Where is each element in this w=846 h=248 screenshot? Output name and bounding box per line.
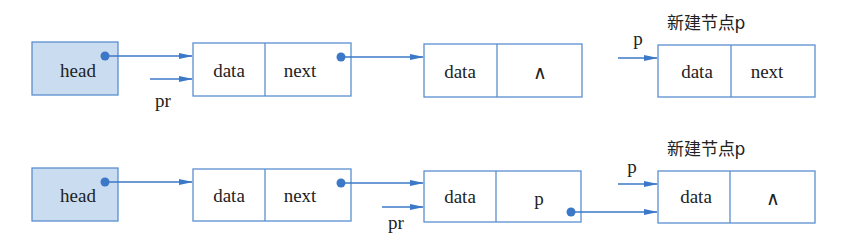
node1-data-row2: data <box>213 186 245 205</box>
diagram-canvas <box>0 0 846 248</box>
head-label-row1: head <box>60 61 96 80</box>
next-dot-row2 <box>337 179 346 188</box>
node1-next-row1: next <box>284 61 317 80</box>
p-pointer-label-row2: p <box>627 157 637 176</box>
pr-label-row1: pr <box>155 91 171 110</box>
node3-data-row1: data <box>681 62 713 81</box>
node1-data-row1: data <box>213 61 245 80</box>
node2-data-row2: data <box>444 187 476 206</box>
p-dot-row2 <box>567 208 576 217</box>
null-symbol-row2: ∧ <box>766 189 780 208</box>
node2-next-p-row2: p <box>534 189 544 208</box>
null-symbol-row1: ∧ <box>533 63 547 82</box>
node2-data-row1: data <box>444 62 476 81</box>
next-dot-row1 <box>337 53 346 62</box>
head-dot-row1 <box>101 52 110 61</box>
pr-label-row2: pr <box>388 213 404 232</box>
new-node-caption-row1: 新建节点p <box>667 15 746 32</box>
head-dot-row2 <box>101 178 110 187</box>
node1-next-row2: next <box>284 186 317 205</box>
new-node-caption-row2: 新建节点p <box>667 141 746 158</box>
node3-data-row2: data <box>680 187 712 206</box>
node3-next-row1: next <box>751 62 784 81</box>
head-label-row2: head <box>60 186 96 205</box>
p-pointer-label-row1: p <box>633 29 643 48</box>
